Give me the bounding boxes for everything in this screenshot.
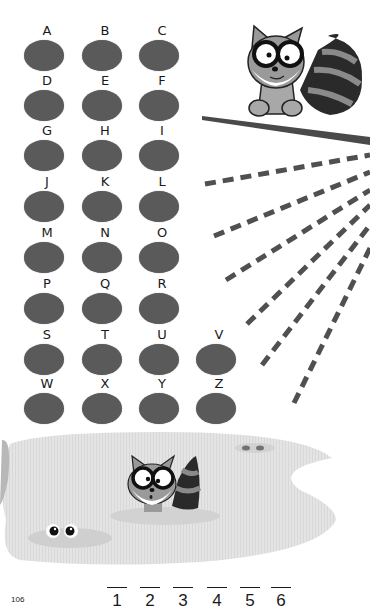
letter-label-v: V [192,328,246,342]
code-oval-e[interactable] [82,90,122,121]
code-oval-i[interactable] [139,140,179,171]
blank-number: 1 [112,591,121,610]
blank-number: 2 [145,591,154,610]
code-oval-k[interactable] [82,191,122,222]
blank-number: 6 [276,591,285,610]
letter-label-c: C [135,24,189,38]
code-oval-w[interactable] [24,393,64,424]
branch [202,116,370,145]
letter-label-r: R [135,277,189,291]
letter-label-t: T [78,328,132,342]
blank-line [140,587,160,588]
code-oval-o[interactable] [139,242,179,273]
answer-blank-5[interactable]: 5 [240,592,260,610]
raccoon-top-icon [248,26,362,116]
code-oval-s[interactable] [24,344,64,375]
letter-label-i: I [135,124,189,138]
letter-label-f: F [135,74,189,88]
letter-label-l: L [135,175,189,189]
letter-label-q: Q [78,277,132,291]
letter-label-e: E [78,74,132,88]
letter-label-u: U [135,328,189,342]
code-oval-y[interactable] [139,393,179,424]
blank-line [107,587,127,588]
letter-label-k: K [78,175,132,189]
blank-line [271,587,291,588]
code-oval-p[interactable] [24,293,64,324]
blank-line [207,587,227,588]
blank-number: 3 [178,591,187,610]
letter-label-g: G [20,124,74,138]
code-oval-g[interactable] [24,140,64,171]
answer-blank-1[interactable]: 1 [107,592,127,610]
code-oval-c[interactable] [139,40,179,71]
code-oval-r[interactable] [139,293,179,324]
code-oval-u[interactable] [139,344,179,375]
letter-label-w: W [20,377,74,391]
letter-label-h: H [78,124,132,138]
letter-label-z: Z [192,377,246,391]
letter-label-b: B [78,24,132,38]
blank-line [173,587,193,588]
answer-blank-3[interactable]: 3 [173,592,193,610]
code-oval-z[interactable] [196,393,236,424]
code-oval-j[interactable] [24,191,64,222]
answer-blank-2[interactable]: 2 [140,592,160,610]
code-oval-v[interactable] [196,344,236,375]
letter-label-x: X [78,377,132,391]
letter-label-j: J [20,175,74,189]
code-oval-x[interactable] [82,393,122,424]
letter-label-y: Y [135,377,189,391]
code-oval-l[interactable] [139,191,179,222]
code-oval-n[interactable] [82,242,122,273]
code-oval-b[interactable] [82,40,122,71]
letter-label-m: M [20,226,74,240]
code-oval-q[interactable] [82,293,122,324]
letter-label-p: P [20,277,74,291]
code-oval-a[interactable] [24,40,64,71]
code-oval-m[interactable] [24,242,64,273]
blank-line [240,587,260,588]
code-oval-f[interactable] [139,90,179,121]
page-number: 106 [11,595,24,604]
letter-label-o: O [135,226,189,240]
letter-label-s: S [20,328,74,342]
code-oval-t[interactable] [82,344,122,375]
blank-number: 5 [245,591,254,610]
letter-label-a: A [20,24,74,38]
letter-label-n: N [78,226,132,240]
blank-number: 4 [212,591,221,610]
code-oval-h[interactable] [82,140,122,171]
answer-blank-6[interactable]: 6 [271,592,291,610]
answer-blank-4[interactable]: 4 [207,592,227,610]
letter-label-d: D [20,74,74,88]
code-oval-d[interactable] [24,90,64,121]
